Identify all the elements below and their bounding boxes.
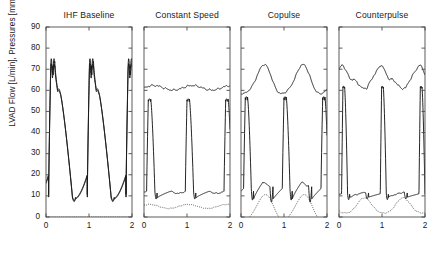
x-tick-label: 1	[77, 221, 101, 230]
multi-panel-plot	[0, 0, 428, 255]
x-tick-label: 1	[175, 221, 199, 230]
panel-constant-speed	[144, 27, 230, 217]
y-tick-label: 0	[12, 212, 40, 221]
x-tick-label: 1	[370, 221, 394, 230]
y-tick-label: 90	[12, 22, 40, 31]
y-tick-label: 10	[12, 190, 40, 199]
aortic-pressure-trace	[241, 64, 327, 94]
ventricular-pressure-trace	[339, 86, 425, 200]
x-tick-label: 0	[132, 221, 156, 230]
y-tick-label: 60	[12, 85, 40, 94]
panel-ihf-baseline	[46, 27, 132, 217]
y-tick-label: 20	[12, 169, 40, 178]
aortic-pressure-trace	[339, 65, 425, 90]
ventricular-pressure-trace	[144, 99, 230, 199]
panel-title: Counterpulse	[314, 10, 428, 20]
y-tick-label: 50	[12, 106, 40, 115]
x-tick-label: 0	[229, 221, 253, 230]
ventricular-pressure-trace	[241, 97, 327, 203]
figure-canvas: LVAD Flow [L/min], Pressures [mmHg] IHF …	[0, 0, 428, 255]
y-tick-label: 40	[12, 127, 40, 136]
x-tick-label: 0	[34, 221, 58, 230]
lvad-flow-trace	[144, 204, 230, 209]
panel-axes-box	[241, 27, 327, 217]
y-tick-label: 70	[12, 64, 40, 73]
panel-axes-box	[339, 27, 425, 217]
ventricular-pressure-trace	[46, 63, 132, 201]
x-tick-label: 0	[327, 221, 351, 230]
panel-copulse	[241, 27, 327, 220]
aortic-pressure-trace	[144, 85, 230, 91]
y-tick-label: 30	[12, 148, 40, 157]
x-tick-label: 2	[413, 221, 428, 230]
y-tick-label: 80	[12, 43, 40, 52]
panel-axes-box	[46, 27, 132, 217]
lvad-flow-trace	[339, 198, 425, 214]
panel-counterpulse	[339, 27, 425, 217]
x-tick-label: 1	[272, 221, 296, 230]
